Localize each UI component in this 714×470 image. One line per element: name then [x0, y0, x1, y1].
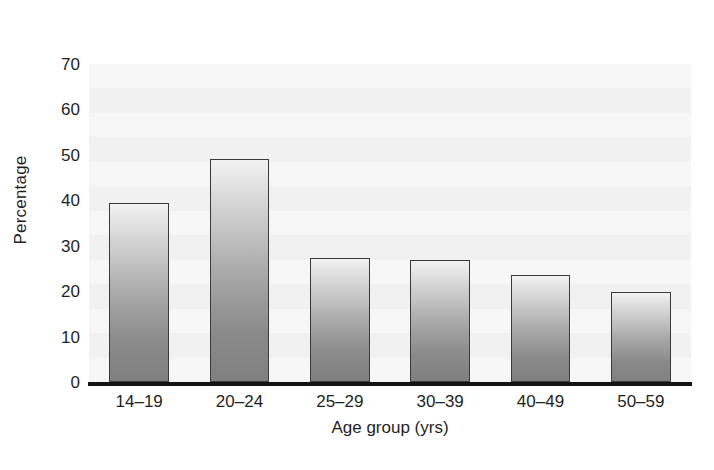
- y-axis-tick-50: 50: [40, 146, 80, 163]
- x-axis-tick-label: 14–19: [116, 390, 163, 414]
- x-axis-tick-label: 40–49: [517, 390, 564, 414]
- y-axis-tick-labels: 010203040506070: [42, 0, 84, 400]
- bar: [410, 260, 470, 382]
- x-axis-tick-labels: 14–1920–2425–2930–3940–4950–59: [89, 390, 691, 418]
- x-axis-title: Age group (yrs): [89, 418, 691, 438]
- y-axis-tick-10: 10: [40, 328, 80, 345]
- x-axis-tick-label: 50–59: [617, 390, 664, 414]
- x-axis-tick-label: 30–39: [417, 390, 464, 414]
- plot-area: [89, 64, 691, 382]
- bar: [109, 203, 169, 382]
- y-axis-title: Percentage: [0, 0, 42, 400]
- bar-series: [89, 64, 691, 382]
- bar: [210, 159, 270, 382]
- x-axis-line: [88, 382, 692, 386]
- bar: [310, 258, 370, 382]
- x-axis-tick-label: 25–29: [316, 390, 363, 414]
- y-axis-tick-40: 40: [40, 192, 80, 209]
- bar: [511, 275, 571, 382]
- y-axis-tick-70: 70: [40, 56, 80, 73]
- x-axis-tick-label: 20–24: [216, 390, 263, 414]
- bar: [611, 292, 671, 382]
- y-axis-tick-20: 20: [40, 283, 80, 300]
- y-axis-tick-0: 0: [40, 374, 80, 391]
- y-axis-tick-60: 60: [40, 101, 80, 118]
- y-axis-title-text: Percentage: [11, 156, 31, 245]
- bar-chart-figure: Percentage 010203040506070 14–1920–2425–…: [0, 0, 714, 470]
- y-axis-tick-30: 30: [40, 237, 80, 254]
